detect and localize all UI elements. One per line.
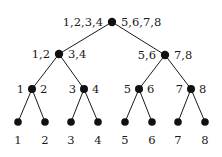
edges: [18, 22, 205, 122]
node-left-label: 5,6: [138, 48, 156, 62]
binary-tree-diagram: 1,2,3,45,6,7,81,23,45,67,812345678123456…: [0, 0, 222, 157]
leaf-node-leaf1: [14, 118, 22, 126]
tree-node-n56_78: [161, 51, 169, 59]
node-left-label: 5: [124, 82, 131, 96]
tree-node-n5_6: [135, 85, 143, 93]
tree-node-n7_8: [187, 85, 195, 93]
node-right-label: 2: [40, 82, 47, 96]
leaf-node-leaf3: [67, 118, 75, 126]
leaf-node-leaf6: [148, 118, 156, 126]
leaf-node-leaf5: [121, 118, 129, 126]
node-left-label: 1: [17, 82, 24, 96]
leaf-label: 4: [94, 133, 101, 147]
leaf-label: 7: [174, 133, 181, 147]
node-right-label: 8: [199, 82, 206, 96]
leaf-label: 3: [67, 133, 74, 147]
node-left-label: 1,2: [32, 47, 50, 61]
node-right-label: 7,8: [174, 48, 192, 62]
leaf-label: 5: [121, 133, 128, 147]
node-left-label: 3: [69, 82, 76, 96]
leaf-node-leaf4: [94, 118, 102, 126]
leaf-node-leaf2: [41, 118, 49, 126]
tree-node-n1_2: [28, 85, 36, 93]
leaf-node-leaf8: [201, 118, 209, 126]
node-right-label: 5,6,7,8: [121, 15, 161, 29]
node-left-label: 7: [176, 82, 183, 96]
nodes: 1,2,3,45,6,7,81,23,45,67,812345678123456…: [14, 15, 209, 147]
tree-node-root: [108, 18, 116, 26]
leaf-node-leaf7: [174, 118, 182, 126]
node-left-label: 1,2,3,4: [63, 15, 103, 29]
node-right-label: 3,4: [68, 47, 86, 61]
leaf-label: 6: [148, 133, 155, 147]
node-right-label: 4: [92, 82, 99, 96]
leaf-label: 1: [14, 133, 21, 147]
leaf-label: 8: [201, 133, 208, 147]
tree-node-n3_4: [80, 85, 88, 93]
leaf-label: 2: [41, 133, 48, 147]
tree-node-n12_34: [55, 50, 63, 58]
node-right-label: 6: [147, 82, 154, 96]
